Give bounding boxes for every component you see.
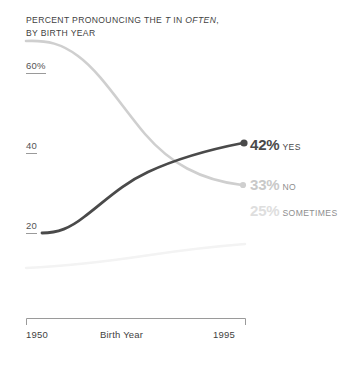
series-name-yes: YES [282, 142, 300, 152]
series-line-no [26, 41, 242, 185]
series-name-no: NO [282, 182, 296, 192]
y-axis-tick-60: 60% [26, 60, 46, 74]
series-name-sometimes: SOMETIMES [282, 208, 337, 218]
series-value-no: 33% [250, 176, 279, 193]
series-line-sometimes [26, 244, 245, 268]
x-axis-title: Birth Year [100, 329, 143, 340]
series-label-no: 33%NO [250, 177, 296, 193]
series-line-yes [42, 143, 243, 233]
series-value-sometimes: 25% [250, 202, 279, 219]
chart-container: PERCENT PRONOUNCING THE T IN OFTEN, BY B… [0, 0, 351, 368]
endpoint-dot-yes [240, 139, 247, 146]
x-axis-label-start: 1950 [26, 329, 48, 340]
y-axis-tick-20: 20 [26, 220, 37, 234]
endpoint-dot-no [240, 182, 246, 188]
x-axis-label-end: 1995 [213, 329, 235, 340]
x-axis-bracket [27, 319, 246, 326]
series-value-yes: 42% [250, 136, 279, 153]
plot-area [0, 0, 351, 368]
y-axis-tick-40: 40 [26, 140, 37, 154]
series-label-sometimes: 25%SOMETIMES [250, 203, 338, 219]
series-label-yes: 42%YES [250, 137, 301, 153]
